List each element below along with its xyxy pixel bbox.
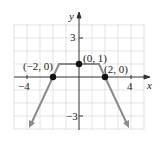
x-axis-label: x [147, 80, 152, 91]
tick-label-pos3: 3 [70, 32, 76, 43]
point-neg2-0 [50, 74, 56, 80]
point-label-neg2-0: (−2, 0) [23, 61, 53, 72]
tick-label-neg3: −3 [66, 111, 78, 122]
point-label-2-0: (2, 0) [104, 64, 128, 75]
y-axis-label: y [69, 11, 74, 22]
point-0-1 [76, 61, 82, 67]
function-graph [0, 0, 162, 144]
tick-label-neg4: −4 [18, 81, 30, 92]
tick-label-pos4: 4 [127, 81, 133, 92]
